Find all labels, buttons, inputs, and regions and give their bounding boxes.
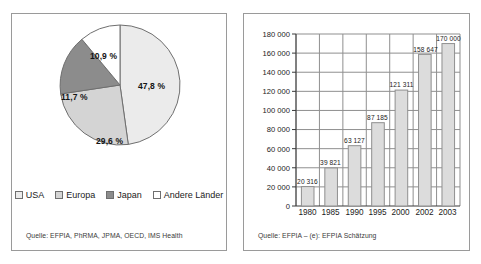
bar-2003 xyxy=(442,44,455,206)
pie-label-europa: 29,6 % xyxy=(96,136,123,146)
y-tick-40000: 40 000 xyxy=(248,164,290,173)
bar-2000 xyxy=(395,90,408,206)
y-tick-100000: 100 000 xyxy=(248,106,290,115)
legend-item-japan: Japan xyxy=(106,190,142,200)
bar-value-2000: 121 311 xyxy=(383,81,420,88)
pie-legend: USA Europa Japan Andere Länder xyxy=(12,190,226,200)
legend-swatch-icon xyxy=(153,191,161,199)
bar-1995 xyxy=(372,123,385,206)
bar-chart-panel: 180 000 160 000 140 000 120 000 100 000 … xyxy=(243,13,470,251)
bar-source-note: Quelle: EFPIA – (e): EFPIA Schätzung xyxy=(258,232,376,239)
y-tick-160000: 160 000 xyxy=(248,49,290,58)
bar-1980 xyxy=(301,187,314,206)
y-tick-140000: 140 000 xyxy=(248,68,290,77)
legend-item-usa: USA xyxy=(15,190,45,200)
legend-label-japan: Japan xyxy=(117,190,142,200)
pie-chart: 47,8 % 29,6 % 11,7 % 10,9 % xyxy=(12,14,226,186)
y-tick-120000: 120 000 xyxy=(248,87,290,96)
x-tick-2003: 2003 xyxy=(431,208,464,217)
bar-value-1995: 87 185 xyxy=(360,114,395,121)
bar-value-2002: 158 647 xyxy=(407,46,444,53)
legend-swatch-icon xyxy=(55,191,63,199)
legend-swatch-icon xyxy=(106,191,114,199)
legend-item-andere-laender: Andere Länder xyxy=(153,190,224,200)
y-tick-20000: 20 000 xyxy=(248,183,290,192)
pie-label-usa: 47,8 % xyxy=(138,81,165,91)
legend-label-usa: USA xyxy=(26,190,45,200)
y-tick-80000: 80 000 xyxy=(248,125,290,134)
bar-1985 xyxy=(325,168,338,206)
bar-1990 xyxy=(348,146,361,206)
bar-value-1985: 39 821 xyxy=(313,159,348,166)
bar-value-1990: 63 127 xyxy=(337,137,372,144)
figure-root: 47,8 % 29,6 % 11,7 % 10,9 % USA Europa J… xyxy=(0,0,481,264)
bar-2002 xyxy=(419,54,432,206)
legend-label-andere-laender: Andere Länder xyxy=(164,190,224,200)
y-tick-0: 0 xyxy=(248,202,290,211)
pie-label-japan: 11,7 % xyxy=(61,92,88,102)
legend-label-europa: Europa xyxy=(66,190,95,200)
y-tick-180000: 180 000 xyxy=(248,30,290,39)
legend-swatch-icon xyxy=(15,191,23,199)
legend-item-europa: Europa xyxy=(55,190,95,200)
pie-label-andere-laender: 10,9 % xyxy=(90,51,117,61)
pie-chart-panel: 47,8 % 29,6 % 11,7 % 10,9 % USA Europa J… xyxy=(11,13,227,251)
y-tick-60000: 60 000 xyxy=(248,145,290,154)
bar-value-2003: 170 000 xyxy=(430,35,467,42)
pie-source-note: Quelle: EFPIA, PhRMA, JPMA, OECD, IMS He… xyxy=(26,232,183,239)
bar-chart: 180 000 160 000 140 000 120 000 100 000 … xyxy=(244,14,469,228)
bar-value-1980: 20 316 xyxy=(290,178,325,185)
